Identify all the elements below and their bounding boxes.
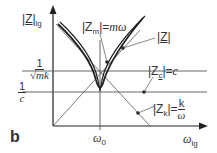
y-axis-label: |Z|lg (22, 13, 42, 30)
xtick-omega0: ω0 (93, 132, 106, 149)
zk-label: |Zk|=kω (153, 98, 185, 121)
z-label: |Z| (157, 31, 171, 43)
line-zm (53, 30, 140, 126)
zm-leader (100, 34, 107, 62)
x-axis-label: ωlg (183, 133, 198, 150)
x-axis-arrow-icon (199, 123, 208, 130)
zm-label: |Zm|=mω (82, 21, 126, 38)
ytick-1-c: 1c (18, 81, 26, 104)
zc-label: |Zc|=c (148, 65, 178, 82)
ytick-1-sqrt-mk: 1√mk (30, 58, 49, 81)
panel-label: b (10, 131, 20, 143)
impedance-diagram: |Z|lg |Zm|=mω |Z| |Zc|=c |Zk|=kω 1√mk 1c… (0, 0, 217, 153)
y-axis-arrow-icon (50, 5, 57, 14)
